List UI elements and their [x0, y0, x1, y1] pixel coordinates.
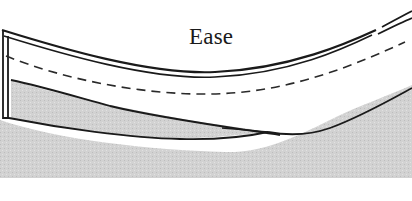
ease-diagram: Ease	[0, 0, 412, 201]
ease-label: Ease	[189, 24, 233, 50]
